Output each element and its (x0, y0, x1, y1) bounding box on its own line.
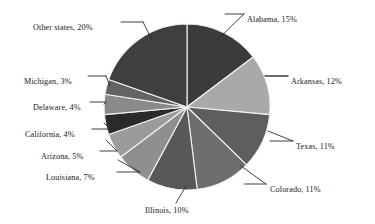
slice-label-texas: Texas, 11% (296, 143, 335, 151)
pie-slice-group (104, 24, 270, 190)
slice-label-louisiana: Louisiana, 7% (46, 174, 95, 182)
slice-label-alabama: Alabama, 15% (247, 16, 297, 24)
slice-label-other-states: Other states, 20% (33, 24, 93, 32)
leader-line-colorado (241, 166, 266, 184)
slice-label-illinois: Illinois, 10% (145, 207, 189, 215)
slice-label-delaware: Delaware, 4% (33, 104, 81, 112)
slice-label-colorado: Colorado, 11% (270, 186, 321, 194)
leader-line-texas (268, 131, 293, 141)
pie-chart-figure: Alabama, 15% Arkansas, 12% Texas, 11% Co… (0, 0, 375, 224)
slice-label-california: California, 4% (25, 131, 75, 139)
slice-label-arizona: Arizona, 5% (41, 153, 83, 161)
slice-label-michigan: Michigan, 3% (24, 78, 72, 86)
slice-label-arkansas: Arkansas, 12% (291, 78, 342, 86)
